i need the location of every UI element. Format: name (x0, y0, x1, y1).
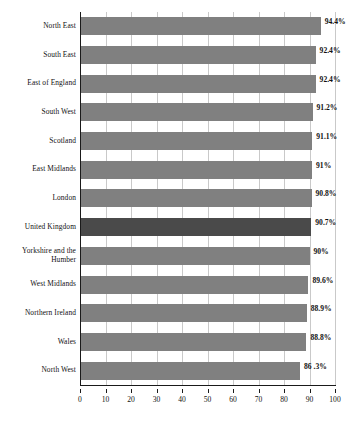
bar-value-label: 86 .3% (304, 362, 327, 371)
bar-row: East of England92.4% (80, 69, 335, 98)
x-tick-label: 20 (127, 395, 135, 404)
x-tick-mark (131, 389, 132, 393)
bar-value-label: 94.4% (325, 17, 346, 26)
x-tick-mark (157, 389, 158, 393)
x-tick-mark (182, 389, 183, 393)
bar-value-label: 90.8% (316, 189, 337, 198)
x-axis-line (80, 385, 336, 386)
bar: 92.4% (80, 46, 316, 64)
category-label: London (2, 194, 76, 203)
bar-value-label: 91.1% (316, 132, 337, 141)
category-label: North East (2, 22, 76, 31)
bar-row: London90.8% (80, 184, 335, 213)
bar: 88.9% (80, 304, 307, 322)
bar: 91.1% (80, 132, 312, 150)
bar-value-label: 90.7% (315, 218, 336, 227)
category-label: East of England (2, 79, 76, 88)
category-label: United Kingdom (2, 223, 76, 232)
gridline (335, 12, 336, 385)
x-tick-mark (284, 389, 285, 393)
x-tick-label: 30 (153, 395, 161, 404)
plot-area: North East94.4%South East92.4%East of En… (80, 12, 335, 385)
bar-row: United Kingdom90.7% (80, 213, 335, 242)
x-tick-mark (335, 389, 336, 393)
bar: 94.4% (80, 17, 321, 35)
bar: 90% (80, 247, 310, 265)
category-label: Wales (2, 338, 76, 347)
x-tick-mark (310, 389, 311, 393)
bar-row: Wales88.8% (80, 328, 335, 357)
bar-value-label: 88.8% (310, 333, 331, 342)
bar: 90.7% (80, 218, 311, 236)
category-label: South West (2, 108, 76, 117)
bar-row: North East94.4% (80, 12, 335, 41)
x-tick-mark (80, 389, 81, 393)
x-tick-label: 70 (255, 395, 263, 404)
category-label: North West (2, 366, 76, 375)
bar: 86 .3% (80, 362, 300, 380)
bar-chart: North East94.4%South East92.4%East of En… (0, 0, 360, 435)
x-tick-mark (106, 389, 107, 393)
bar-value-label: 88.9% (311, 304, 332, 313)
bar: 92.4% (80, 75, 316, 93)
category-label: Scotland (2, 137, 76, 146)
category-label: West Midlands (2, 280, 76, 289)
bar-value-label: 92.4% (320, 75, 341, 84)
x-tick-label: 50 (204, 395, 212, 404)
bar: 90.8% (80, 189, 312, 207)
bar: 88.8% (80, 333, 306, 351)
category-label: East Midlands (2, 165, 76, 174)
bar-value-label: 90% (314, 247, 329, 256)
bar-row: Scotland91.1% (80, 127, 335, 156)
bar-value-label: 91.2% (317, 103, 338, 112)
bar-row: East Midlands91% (80, 155, 335, 184)
category-label: Northern Ireland (2, 309, 76, 318)
bar-value-label: 91% (316, 161, 331, 170)
bar: 91.2% (80, 103, 313, 121)
bar-row: Northern Ireland88.9% (80, 299, 335, 328)
bar-row: South East92.4% (80, 41, 335, 70)
bar-row: North West86 .3% (80, 356, 335, 385)
x-tick-label: 0 (78, 395, 82, 404)
bar-row: West Midlands89.6% (80, 270, 335, 299)
x-tick-label: 80 (280, 395, 288, 404)
x-tick-label: 90 (306, 395, 314, 404)
x-axis-ticks: 0102030405060708090100 (80, 389, 336, 409)
x-tick-label: 100 (329, 395, 340, 404)
x-tick-label: 60 (229, 395, 237, 404)
bar: 89.6% (80, 276, 308, 294)
x-tick-mark (233, 389, 234, 393)
x-tick-label: 10 (102, 395, 110, 404)
bar-row: South West91.2% (80, 98, 335, 127)
bar-value-label: 89.6% (312, 276, 333, 285)
x-tick-mark (208, 389, 209, 393)
bar-value-label: 92.4% (320, 46, 341, 55)
category-label: Yorkshire and theHumber (2, 247, 76, 264)
bar-row: Yorkshire and theHumber90% (80, 242, 335, 271)
y-axis-line (80, 12, 81, 385)
x-tick-mark (259, 389, 260, 393)
category-label: South East (2, 51, 76, 60)
x-tick-label: 40 (178, 395, 186, 404)
bar: 91% (80, 161, 312, 179)
bar-rows: North East94.4%South East92.4%East of En… (80, 12, 335, 385)
